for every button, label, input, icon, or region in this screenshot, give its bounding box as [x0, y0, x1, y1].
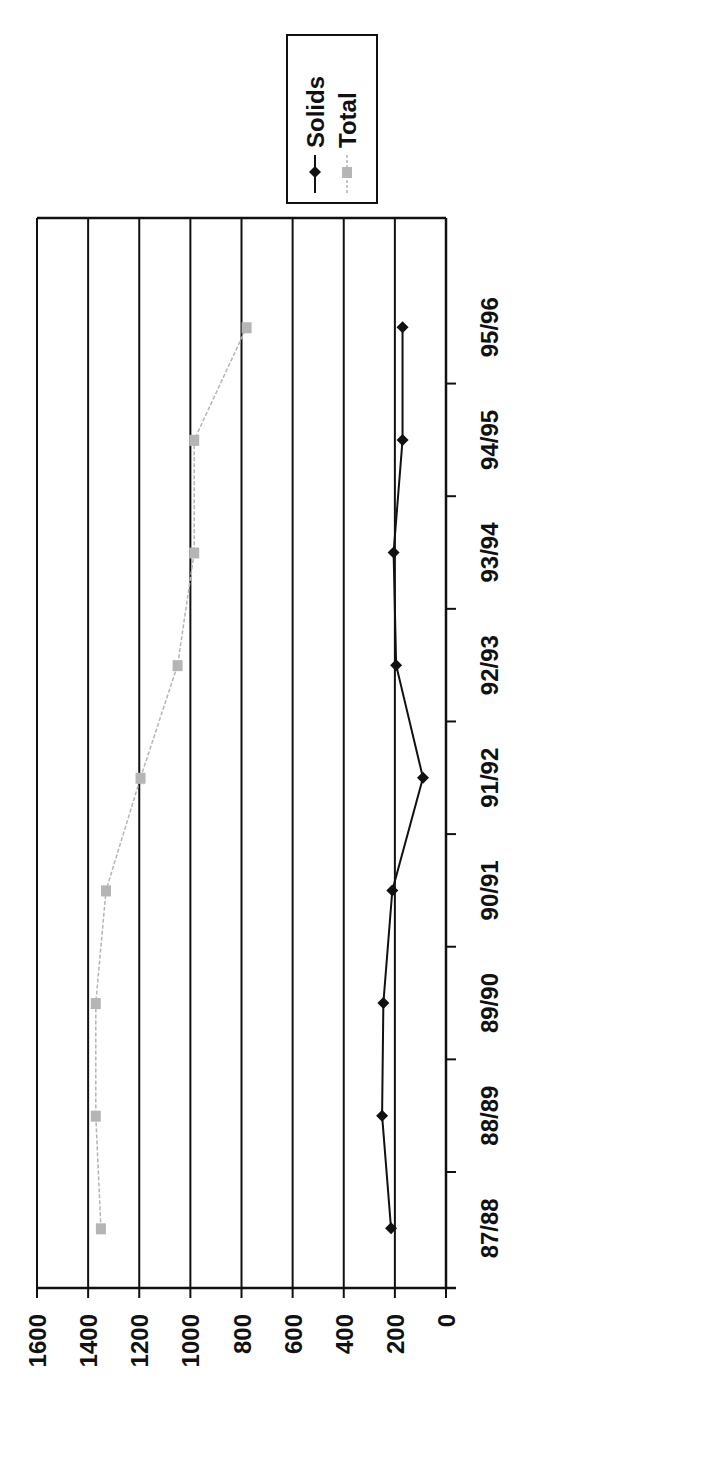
- data-point-diamond: [386, 884, 398, 896]
- data-point-diamond: [397, 321, 409, 333]
- legend-label-solids: Solids: [302, 76, 329, 148]
- category-tick-label: 94/95: [476, 410, 503, 470]
- data-point-square: [91, 998, 101, 1009]
- data-point-diamond: [388, 547, 400, 559]
- series-total: [91, 322, 252, 1234]
- data-point-square: [101, 885, 111, 896]
- data-point-square: [136, 773, 146, 784]
- legend-box: [287, 35, 377, 203]
- category-tick-label: 89/90: [476, 973, 503, 1033]
- data-point-square: [173, 660, 183, 671]
- legend: Solids Total: [287, 35, 377, 203]
- value-tick-label: 600: [280, 1314, 307, 1354]
- category-tick-label: 88/89: [476, 1086, 503, 1146]
- legend-label-total: Total: [334, 92, 361, 148]
- value-tick-label: 1000: [177, 1314, 204, 1367]
- data-point-diamond: [377, 997, 389, 1009]
- category-axis-ticks: 87/8888/8989/9090/9191/9292/9393/9494/95…: [446, 297, 503, 1258]
- square-marker-icon: [342, 167, 352, 178]
- data-point-square: [91, 1111, 101, 1122]
- line-chart: 02004006008001000120014001600 87/8888/89…: [0, 0, 717, 1478]
- category-tick-label: 91/92: [476, 748, 503, 808]
- value-tick-label: 400: [331, 1314, 358, 1354]
- value-tick-label: 0: [433, 1314, 460, 1327]
- data-point-square: [96, 1223, 106, 1234]
- series-line: [382, 327, 423, 1228]
- series-line: [96, 327, 247, 1228]
- data-point-square: [242, 322, 252, 333]
- axes: [37, 218, 456, 1288]
- value-axis-ticks: 02004006008001000120014001600: [24, 1314, 460, 1367]
- value-tick-label: 1400: [75, 1314, 102, 1367]
- category-tick-label: 92/93: [476, 635, 503, 695]
- category-tick-label: 90/91: [476, 860, 503, 920]
- series-lines: [91, 321, 429, 1234]
- series-solids: [376, 321, 429, 1234]
- data-point-square: [189, 548, 199, 559]
- value-tick-label: 1200: [126, 1314, 153, 1367]
- data-point-diamond: [417, 772, 429, 784]
- data-point-diamond: [376, 1110, 388, 1122]
- data-point-diamond: [390, 659, 402, 671]
- value-tick-label: 1600: [24, 1314, 51, 1367]
- value-tick-label: 200: [382, 1314, 409, 1354]
- data-point-diamond: [397, 434, 409, 446]
- value-tick-label: 800: [229, 1314, 256, 1354]
- data-point-square: [189, 435, 199, 446]
- category-tick-label: 87/88: [476, 1198, 503, 1258]
- category-tick-label: 93/94: [476, 522, 503, 583]
- category-tick-label: 95/96: [476, 297, 503, 357]
